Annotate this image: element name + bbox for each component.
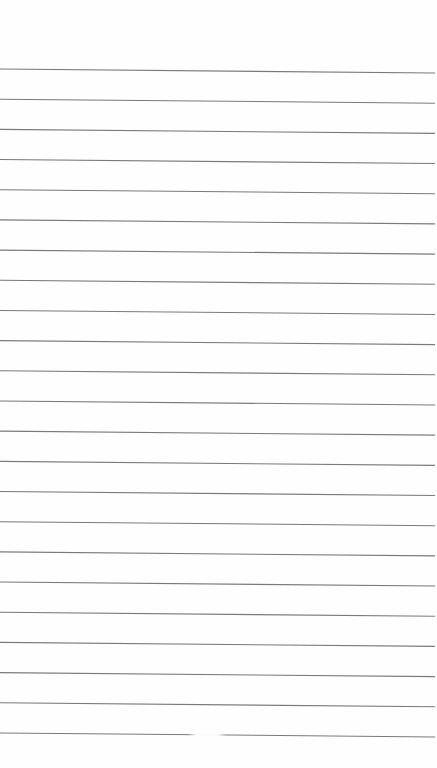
ruled-line [0, 250, 435, 254]
ruled-line [0, 220, 435, 224]
ruled-line [0, 69, 435, 73]
ruled-line [0, 341, 435, 345]
ruled-line [0, 190, 435, 194]
ruled-line [0, 280, 435, 284]
ruled-line [0, 582, 435, 586]
ruled-line [0, 673, 435, 677]
ruled-line [0, 552, 435, 556]
ruled-line [0, 492, 435, 496]
ruled-line [0, 160, 435, 164]
ruled-line [0, 461, 435, 465]
ruled-line [0, 371, 435, 375]
ruled-notebook-page [0, 0, 437, 768]
ruled-line [0, 431, 435, 435]
ruled-line [0, 733, 435, 737]
ruled-line [0, 310, 435, 314]
ruled-line [0, 129, 435, 133]
ruled-line [0, 703, 435, 707]
ruled-line [0, 401, 435, 405]
ruled-lines [0, 0, 437, 768]
ruled-line [0, 612, 435, 616]
ruled-line [0, 99, 435, 103]
ruled-line [0, 642, 435, 646]
ruled-line [0, 522, 435, 526]
